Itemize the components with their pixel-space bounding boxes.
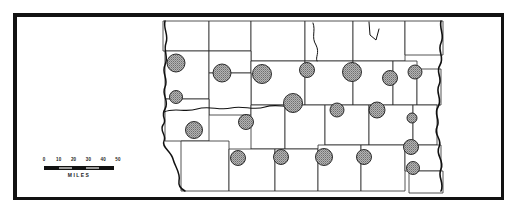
county-symbol-c16 [274, 150, 289, 165]
county-symbol-c15 [231, 151, 246, 166]
county-symbol-c03 [253, 65, 272, 84]
county-symbol-c20 [407, 162, 420, 175]
county-symbol-c12 [369, 102, 385, 118]
county-symbol-c07 [408, 65, 422, 79]
county-symbol-c10 [284, 94, 303, 113]
county-symbol-c02 [213, 64, 231, 82]
scale-tick-5: 50 [115, 157, 120, 162]
scale-tick-3: 30 [86, 157, 91, 162]
county-symbol-c08 [170, 91, 183, 104]
county-symbol-c13 [407, 113, 417, 123]
county-symbol-c14 [186, 122, 203, 139]
county-symbol-c19 [404, 140, 419, 155]
scale-tick-4: 40 [100, 157, 105, 162]
scale-bar: 0 10 20 30 40 50 MILES [44, 157, 118, 178]
county-symbol-c04 [300, 63, 315, 78]
county-symbol-c18 [357, 150, 372, 165]
scale-bar-segments [44, 166, 114, 170]
map-figure: 0 10 20 30 40 50 MILES [0, 0, 526, 223]
scale-segment-1 [59, 167, 73, 169]
county-symbol-c01 [167, 54, 185, 72]
scale-tick-2: 20 [71, 157, 76, 162]
scale-tick-1: 10 [56, 157, 61, 162]
scale-segment-2 [72, 167, 86, 169]
county-symbol-c06 [383, 71, 398, 86]
county-symbol-c05 [343, 63, 362, 82]
scale-segment-3 [86, 167, 100, 169]
county-symbol-c17 [316, 149, 333, 166]
county-symbol-c09 [239, 115, 254, 130]
scale-tick-labels: 0 10 20 30 40 50 [44, 157, 118, 165]
scale-segment-0 [45, 167, 59, 169]
county-symbol-c11 [330, 103, 344, 117]
scale-segment-4 [99, 167, 113, 169]
scale-tick-0: 0 [43, 157, 46, 162]
scale-bar-caption: MILES [44, 172, 114, 178]
county-boundaries [163, 21, 443, 193]
